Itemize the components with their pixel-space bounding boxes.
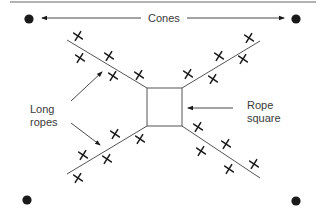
player-x-mark — [74, 32, 83, 41]
long-ropes-arrow-lower — [71, 123, 100, 145]
rope-bottom-left — [67, 126, 147, 174]
player-x-mark — [245, 34, 254, 43]
player-x-mark — [197, 147, 206, 156]
rope-square-label-line2: square — [247, 112, 281, 125]
rope-square-label-line1: Rope — [247, 99, 281, 112]
player-x-mark — [209, 75, 218, 84]
cone-bottom-right — [291, 196, 300, 205]
player-x-mark — [135, 71, 144, 80]
rope-bottom-right — [182, 126, 260, 178]
player-x-mark — [74, 174, 83, 183]
cones-label: Cones — [148, 12, 180, 25]
player-x-mark — [103, 155, 112, 164]
long-ropes-label-line1: Long — [30, 103, 58, 116]
long-ropes-label-line2: ropes — [30, 116, 58, 129]
player-x-mark — [79, 151, 88, 160]
rope-top-right — [182, 41, 260, 88]
player-x-mark — [111, 130, 120, 139]
player-x-mark — [225, 165, 234, 174]
cone-top-right — [291, 14, 300, 23]
cone-top-left — [24, 14, 33, 23]
player-x-mark — [250, 160, 259, 169]
player-x-mark — [194, 123, 203, 132]
long-ropes-group — [67, 40, 260, 178]
long-ropes-arrow-upper — [71, 72, 102, 101]
cone-bottom-left — [22, 195, 31, 204]
rope-top-left — [67, 40, 147, 88]
player-x-mark — [109, 72, 118, 81]
player-marks-group — [74, 32, 259, 183]
rope-square — [147, 88, 182, 126]
player-x-mark — [136, 135, 145, 144]
player-x-mark — [76, 54, 85, 63]
rope-square-label: Rope square — [247, 99, 281, 125]
player-x-mark — [184, 70, 193, 79]
long-ropes-label: Long ropes — [30, 103, 58, 129]
player-x-mark — [222, 140, 231, 149]
player-x-mark — [215, 52, 224, 61]
player-x-mark — [105, 52, 114, 61]
player-x-mark — [239, 55, 248, 64]
